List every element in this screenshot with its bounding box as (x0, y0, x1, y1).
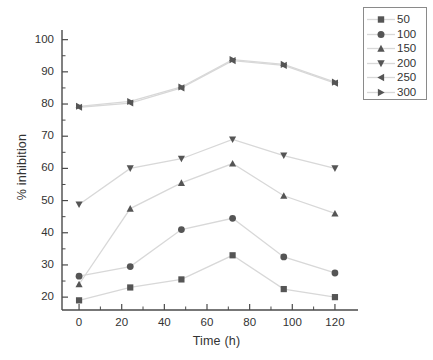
legend-item-100[interactable]: 100 (364, 27, 428, 42)
series-marker-50 (76, 297, 82, 303)
legend-label: 300 (397, 85, 416, 100)
legend-label: 100 (397, 27, 416, 42)
series-marker-100 (332, 270, 339, 277)
y-tick-label: 90 (26, 65, 54, 77)
legend-marker-50-icon (367, 12, 395, 27)
x-tick-label: 100 (277, 316, 307, 328)
y-tick-label: 70 (26, 129, 54, 141)
legend-marker-150-icon (367, 41, 395, 56)
legend-sample-icon (367, 41, 395, 56)
legend-sample-icon (367, 85, 395, 100)
legend-item-200[interactable]: 200 (364, 56, 428, 71)
series-marker-50 (332, 294, 338, 300)
legend-sample-icon (367, 70, 395, 85)
y-tick-label: 50 (26, 194, 54, 206)
series-marker-100 (178, 226, 185, 233)
x-tick-label: 60 (192, 316, 222, 328)
y-tick-label: 80 (26, 97, 54, 109)
legend-label: 200 (397, 56, 416, 71)
x-tick-label: 20 (107, 316, 137, 328)
series-line-250 (79, 61, 335, 108)
y-tick-label: 60 (26, 161, 54, 173)
series-marker-50 (178, 276, 184, 282)
series-marker-100 (76, 273, 83, 280)
x-tick-label: 0 (64, 316, 94, 328)
y-tick-label: 20 (26, 290, 54, 302)
series-line-50 (79, 255, 335, 300)
chart-figure: Time (h) % inhibition 203040506070809010… (0, 0, 433, 360)
series-marker-150 (229, 160, 236, 167)
legend-sample-icon (367, 56, 395, 71)
series-marker-50 (229, 252, 235, 258)
x-tick-label: 40 (149, 316, 179, 328)
series-marker-100 (229, 215, 236, 222)
legend-sample-icon (367, 12, 395, 27)
legend-label: 50 (397, 12, 410, 27)
legend-marker-glyph (378, 89, 385, 96)
series-marker-150 (280, 192, 287, 199)
legend-item-250[interactable]: 250 (364, 70, 428, 85)
legend-item-300[interactable]: 300 (364, 85, 428, 100)
legend-marker-glyph (378, 16, 384, 22)
series-marker-200 (127, 165, 134, 172)
legend-marker-200-icon (367, 56, 395, 71)
x-tick-label: 120 (320, 316, 350, 328)
x-axis-label: Time (h) (0, 334, 433, 348)
legend-marker-300-icon (367, 85, 395, 100)
legend-sample-icon (367, 27, 395, 42)
legend-label: 150 (397, 41, 416, 56)
series-marker-200 (331, 165, 338, 172)
chart-legend: 50100150200250300 (363, 7, 427, 100)
legend-marker-250-icon (367, 70, 395, 85)
series-marker-200 (75, 201, 82, 208)
legend-item-150[interactable]: 150 (364, 41, 428, 56)
series-marker-50 (281, 286, 287, 292)
series-line-300 (79, 60, 335, 107)
series-line-200 (79, 139, 335, 204)
legend-marker-glyph (377, 74, 384, 81)
series-marker-100 (280, 253, 287, 260)
y-tick-label: 100 (26, 33, 54, 45)
y-tick-label: 40 (26, 226, 54, 238)
series-marker-100 (127, 263, 134, 270)
y-tick-label: 30 (26, 258, 54, 270)
legend-marker-100-icon (367, 27, 395, 42)
legend-item-50[interactable]: 50 (364, 12, 428, 27)
legend-marker-glyph (378, 31, 385, 38)
x-tick-label: 80 (235, 316, 265, 328)
legend-label: 250 (397, 70, 416, 85)
series-marker-150 (127, 205, 134, 212)
series-marker-50 (127, 284, 133, 290)
